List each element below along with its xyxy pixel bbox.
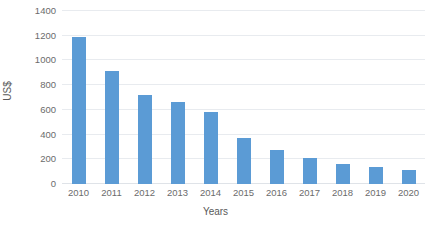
plot-area [62,11,425,184]
x-axis-tick-label: 2018 [328,188,358,198]
bar [303,158,317,184]
y-axis-tick-label: 1200 [2,31,56,41]
y-axis-tick-label: 800 [2,80,56,90]
x-axis-tick-label: 2010 [64,188,94,198]
y-axis-tick-label: 400 [2,130,56,140]
x-axis-tick-label: 2016 [262,188,292,198]
x-axis-tick-label: 2019 [361,188,391,198]
bar [270,150,284,184]
y-axis-tick-labels: 0200400600800100012001400 [0,11,56,184]
bars [62,11,425,184]
bar [369,167,383,184]
bar [237,138,251,184]
x-axis-tick-label: 2011 [97,188,127,198]
x-axis-tick-label: 2020 [394,188,424,198]
y-axis-tick-label: 1400 [2,6,56,16]
bar-chart: US$ 0200400600800100012001400 2010201120… [0,0,431,235]
y-axis-tick-label: 0 [2,179,56,189]
bar [204,112,218,184]
x-axis-tick-label: 2013 [163,188,193,198]
bar [336,164,350,184]
bar [402,170,416,184]
y-axis-tick-label: 200 [2,155,56,165]
x-axis-tick-label: 2012 [130,188,160,198]
x-axis-title: Years [0,207,431,217]
x-axis-tick-label: 2017 [295,188,325,198]
bar [138,95,152,184]
bar [72,37,86,184]
y-axis-tick-label: 600 [2,105,56,115]
bar [105,71,119,184]
bar [171,102,185,184]
x-axis-tick-label: 2014 [196,188,226,198]
x-axis-tick-label: 2015 [229,188,259,198]
y-axis-tick-label: 1000 [2,56,56,66]
